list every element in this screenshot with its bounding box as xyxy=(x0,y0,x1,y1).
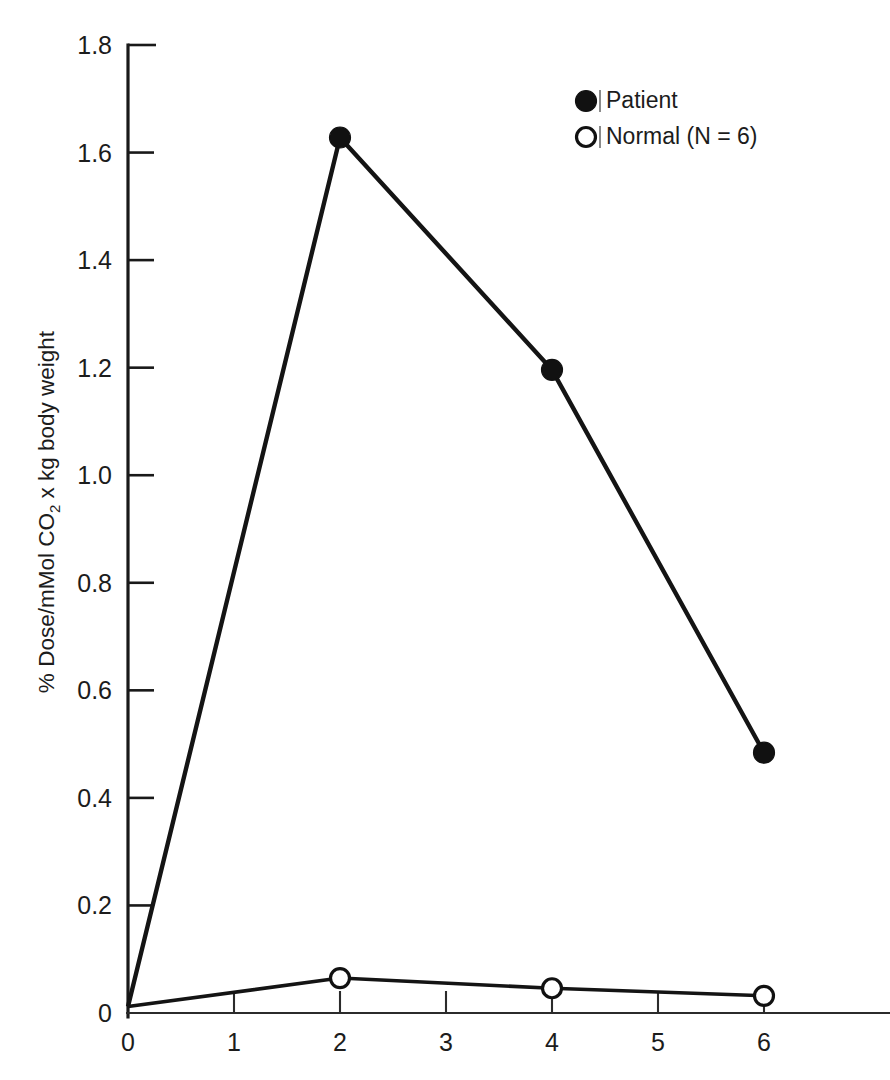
x-axis-tick-label: 0 xyxy=(121,1028,135,1056)
data-point-patient xyxy=(542,359,563,380)
data-point-normal xyxy=(755,986,774,1005)
y-axis-tick-label: 0.8 xyxy=(77,569,112,597)
y-axis-tick-labels: 00.20.40.60.81.01.21.41.61.8 xyxy=(77,31,112,1027)
x-axis-tick-label: 1 xyxy=(227,1028,241,1056)
y-axis-tick-label: 1.6 xyxy=(77,139,112,167)
legend-marker-filled-circle-icon xyxy=(576,91,597,112)
y-axis-tick-label: 1.0 xyxy=(77,461,112,489)
chart-figure: 00.20.40.60.81.01.21.41.61.8 0123456 % D… xyxy=(0,0,890,1080)
line-chart-svg: 00.20.40.60.81.01.21.41.61.8 0123456 % D… xyxy=(0,0,890,1080)
x-axis-tick-label: 2 xyxy=(333,1028,347,1056)
x-axis-tick-label: 5 xyxy=(651,1028,665,1056)
y-axis-tick-label: 0.4 xyxy=(77,784,112,812)
x-axis-tick-label: 6 xyxy=(757,1028,771,1056)
x-axis-tick-label: 4 xyxy=(545,1028,559,1056)
series-line-patient xyxy=(128,137,764,1006)
data-series-group xyxy=(128,127,775,1007)
legend-label: Patient xyxy=(606,87,678,113)
y-axis-ticks xyxy=(128,45,156,905)
x-axis-tick-label: 3 xyxy=(439,1028,453,1056)
legend-marker-open-circle-icon xyxy=(577,128,596,147)
data-point-normal xyxy=(331,969,350,988)
y-axis-tick-label: 1.4 xyxy=(77,246,112,274)
legend-label: Normal (N = 6) xyxy=(606,123,757,149)
x-axis-tick-labels: 0123456 xyxy=(121,1028,771,1056)
chart-legend: PatientNormal (N = 6) xyxy=(576,87,758,149)
data-point-patient xyxy=(754,742,775,763)
y-axis-title: % Dose/mMol CO2 x kg body weight xyxy=(34,330,63,693)
data-point-normal xyxy=(543,979,562,998)
y-axis-tick-label: 0.2 xyxy=(77,891,112,919)
y-axis-tick-label: 1.8 xyxy=(77,31,112,59)
y-axis-tick-label: 0.6 xyxy=(77,676,112,704)
y-axis-tick-label: 0 xyxy=(98,999,112,1027)
y-axis-tick-label: 1.2 xyxy=(77,354,112,382)
data-point-patient xyxy=(330,127,351,148)
